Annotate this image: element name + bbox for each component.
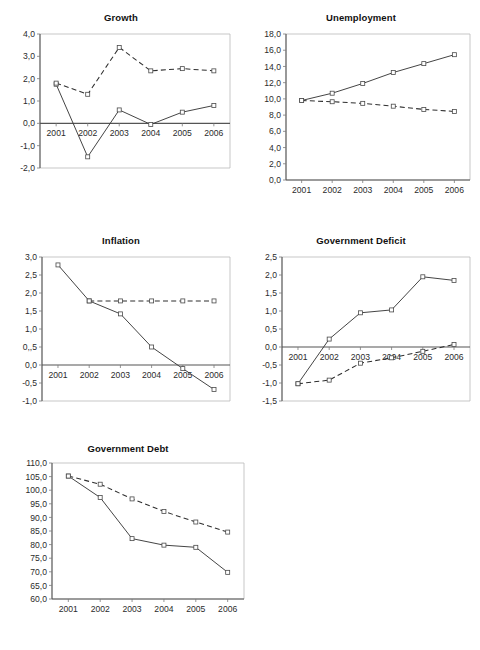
data-point-marker (226, 530, 230, 534)
y-tick-label: 16,0 (264, 45, 281, 55)
y-tick-label: 110,0 (26, 458, 47, 468)
chart-government-deficit-canvas: 2,52,01,51,00,50,0-0,5-1,0-1,52001200220… (262, 252, 470, 406)
data-point-marker (421, 349, 425, 353)
y-tick-label: -1,0 (262, 378, 277, 388)
data-point-marker (300, 99, 304, 103)
y-tick-label: 14,0 (264, 62, 281, 72)
y-tick-label: -2,0 (20, 163, 35, 173)
y-tick-label: 2,0 (23, 74, 35, 84)
y-tick-label: 0,,5 (23, 342, 38, 352)
chart-plot-government-debt: 110,0105,0100,095,090,085,080,075,070,06… (8, 457, 248, 643)
chart-plot-growth: 4,03,02,01,00,0-1,0-2,020012002200320042… (8, 28, 234, 217)
chart-plot-unemployment: 18,016,014,012,010,08,06,04,02,00,020012… (248, 28, 474, 217)
x-tick-label: 2002 (323, 185, 342, 195)
data-point-marker (212, 103, 216, 107)
chart-title-unemployment: Unemployment (248, 12, 474, 23)
x-tick-label: 2004 (141, 128, 160, 138)
figure-sheet: Growth 4,03,02,01,00,0-1,0-2,02001200220… (0, 0, 480, 650)
data-point-marker (66, 474, 70, 478)
y-tick-label: 0,0 (25, 360, 37, 370)
y-tick-label: 12,0 (264, 78, 281, 88)
data-point-marker (56, 263, 60, 267)
chart-inflation-canvas: 3,02,52,01,51,00,,50,0-0,5-1,02001200220… (22, 252, 230, 406)
data-point-marker (421, 275, 425, 279)
y-tick-label: 4,0 (269, 143, 281, 153)
y-tick-label: 95,0 (30, 499, 47, 509)
chart-unemployment-canvas: 18,016,014,012,010,08,06,04,02,00,020012… (264, 29, 470, 194)
data-point-marker (330, 100, 334, 104)
chart-panel-unemployment: Unemployment 18,016,014,012,010,08,06,04… (248, 12, 474, 217)
chart-title-growth: Growth (8, 12, 234, 23)
data-point-marker (212, 69, 216, 73)
series-line-solid (298, 277, 454, 384)
data-point-marker (162, 509, 166, 513)
data-point-marker (118, 312, 122, 316)
y-tick-label: -0,5 (262, 360, 277, 370)
y-tick-label: -1,5 (262, 396, 277, 406)
y-tick-label: 2,0 (265, 270, 277, 280)
data-point-marker (180, 110, 184, 114)
data-point-marker (212, 387, 216, 391)
x-tick-label: 2003 (123, 604, 142, 614)
x-tick-label: 2006 (444, 352, 463, 362)
y-tick-label: 100,0 (25, 485, 47, 495)
data-point-marker (87, 299, 91, 303)
x-tick-label: 2001 (48, 370, 67, 380)
data-point-marker (130, 497, 134, 501)
series-line-dashed (68, 476, 227, 532)
chart-growth-canvas: 4,03,02,01,00,0-1,0-2,020012002200320042… (20, 29, 230, 173)
data-point-marker (150, 345, 154, 349)
data-point-marker (361, 101, 365, 105)
x-tick-label: 2005 (186, 604, 205, 614)
y-tick-label: 0,0 (23, 118, 35, 128)
y-tick-label: -0,5 (22, 378, 37, 388)
series-line-solid (302, 55, 455, 101)
x-tick-label: 2003 (111, 370, 130, 380)
data-point-marker (180, 67, 184, 71)
data-point-marker (98, 496, 102, 500)
data-point-marker (118, 299, 122, 303)
series-line-dashed (302, 101, 455, 112)
y-tick-label: 1,0 (265, 306, 277, 316)
data-point-marker (86, 155, 90, 159)
y-tick-label: 2,5 (265, 252, 277, 262)
y-tick-label: 0,0 (269, 175, 281, 185)
x-tick-label: 2004 (154, 604, 173, 614)
y-tick-label: 10,0 (264, 94, 281, 104)
data-point-marker (86, 92, 90, 96)
y-tick-label: 0,0 (265, 342, 277, 352)
data-point-marker (452, 342, 456, 346)
y-tick-label: 60,0 (30, 594, 47, 604)
data-point-marker (391, 71, 395, 75)
data-point-marker (181, 367, 185, 371)
y-tick-label: 75,0 (30, 553, 47, 563)
x-tick-label: 2001 (59, 604, 78, 614)
y-tick-label: -1,0 (20, 141, 35, 151)
data-point-marker (296, 382, 300, 386)
data-point-marker (194, 545, 198, 549)
data-point-marker (54, 81, 58, 85)
y-tick-label: 1,5 (25, 306, 37, 316)
chart-government-debt-canvas: 110,0105,0100,095,090,085,080,075,070,06… (25, 458, 244, 613)
data-point-marker (130, 537, 134, 541)
x-tick-label: 2005 (173, 128, 192, 138)
data-point-marker (226, 570, 230, 574)
x-tick-label: 2006 (204, 370, 223, 380)
x-tick-label: 2003 (351, 352, 370, 362)
series-line-solid (56, 84, 214, 157)
data-point-marker (194, 520, 198, 524)
y-tick-label: 2,0 (25, 288, 37, 298)
y-tick-label: 4,0 (23, 29, 35, 39)
chart-panel-government-deficit: Government Deficit 2,52,01,51,00,50,0-0,… (248, 235, 474, 435)
x-tick-label: 2005 (173, 370, 192, 380)
data-point-marker (117, 45, 121, 49)
y-tick-label: 2,5 (25, 270, 37, 280)
x-tick-label: 2001 (292, 185, 311, 195)
data-point-marker (330, 91, 334, 95)
chart-plot-government-deficit: 2,52,01,51,00,50,0-0,5-1,0-1,52001200220… (248, 251, 474, 435)
y-tick-label: 0,5 (265, 324, 277, 334)
y-tick-label: -1,0 (22, 396, 37, 406)
chart-plot-inflation: 3,02,52,01,51,00,,50,0-0,5-1,02001200220… (8, 251, 234, 435)
data-point-marker (361, 81, 365, 85)
y-tick-label: 1,0 (25, 324, 37, 334)
